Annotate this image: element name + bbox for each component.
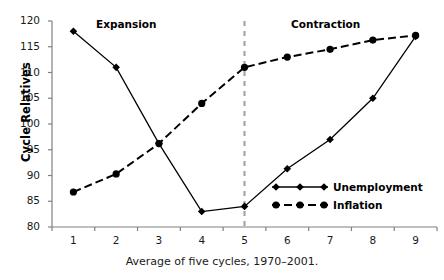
figure-caption: Average of five cycles, 1970–2001.: [0, 255, 444, 268]
x-tick-label: 7: [318, 235, 342, 246]
x-tick-label: 6: [275, 235, 299, 246]
chart-figure: 80859095100105110115120 123456789 Cycle …: [0, 0, 444, 280]
y-tick-label: 120: [14, 15, 40, 26]
y-tick-label: 80: [14, 221, 40, 232]
annotation-expansion: Expansion: [96, 18, 157, 30]
y-axis-title: Cycle Relatives: [19, 52, 33, 172]
legend-item-unemployment-label: Unemployment: [333, 181, 423, 193]
chart-plot-area: 80859095100105110115120 123456789 Cycle …: [0, 0, 444, 248]
x-tick-label: 2: [104, 235, 128, 246]
y-tick-label: 115: [14, 41, 40, 52]
y-tick-label: 85: [14, 195, 40, 206]
x-tick-label: 4: [190, 235, 214, 246]
legend-item-inflation-label: Inflation: [333, 199, 383, 211]
x-tick-label: 3: [147, 235, 171, 246]
annotation-contraction: Contraction: [291, 18, 360, 30]
x-tick-label: 5: [233, 235, 257, 246]
x-tick-label: 8: [361, 235, 385, 246]
x-tick-label: 9: [404, 235, 428, 246]
x-tick-label: 1: [61, 235, 85, 246]
legend-marks: [272, 183, 328, 208]
